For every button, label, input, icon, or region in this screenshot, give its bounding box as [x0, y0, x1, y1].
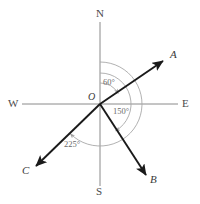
compass-label-south: S: [96, 186, 102, 197]
compass-label-north: N: [96, 8, 104, 19]
diagram-canvas: [0, 0, 200, 204]
ray-label-A: A: [170, 49, 177, 60]
ray-label-C: C: [22, 165, 29, 176]
compass-bearing-figure: N S E W O A B C 60° 150° 225°: [0, 0, 200, 204]
ray-label-B: B: [150, 174, 157, 185]
angle-label-150: 150°: [113, 107, 129, 116]
angle-label-225: 225°: [64, 140, 80, 149]
compass-label-east: E: [182, 98, 189, 109]
angle-label-60: 60°: [103, 78, 115, 87]
compass-label-west: W: [8, 98, 18, 109]
ray-to-C: [36, 104, 100, 166]
origin-label: O: [88, 92, 95, 102]
